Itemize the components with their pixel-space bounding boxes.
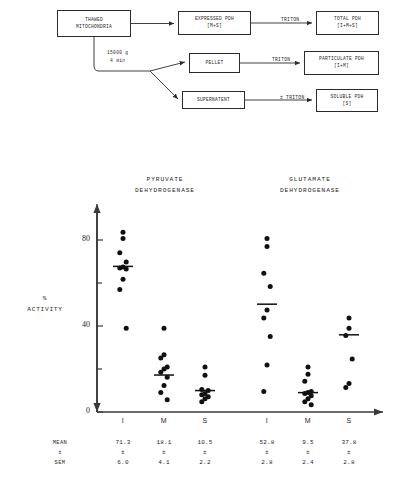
flow-box-line: SOLUBLE PDH: [330, 94, 363, 101]
flow-box-pellet: PELLET: [189, 53, 240, 73]
data-point: [162, 383, 167, 388]
data-point: [124, 259, 129, 264]
flow-box-line: [I+M]: [334, 63, 349, 70]
panel-title-pyruvate: PYRUVATE DEHYDROGENASE: [105, 174, 225, 197]
stats-row-label-mean: MEAN: [40, 440, 80, 446]
stats-sem-value: 2.4: [288, 459, 328, 466]
figure-page: THAWEDMITOCHONDRIAEXPRESSED PDH[M+S]TOTA…: [0, 0, 400, 477]
stats-plus-minus: ±: [103, 449, 143, 456]
summary-statistics-table: MEAN ± SEM 71.3±6.018.1±4.110.5±2.252.8±…: [0, 430, 400, 477]
data-point: [306, 365, 311, 370]
data-point: [162, 326, 167, 331]
data-point: [124, 267, 129, 272]
flow-box-line: PARTICULATE PDH: [319, 56, 364, 63]
x-label-pdh-m: M: [155, 417, 173, 424]
data-point: [302, 399, 307, 404]
flow-edge-label-triton-total: TRITON: [281, 17, 299, 22]
stats-plus-minus: ±: [144, 449, 184, 456]
data-point: [158, 390, 163, 395]
stats-plus-minus: ±: [329, 449, 369, 456]
x-label-pdh-s: S: [196, 417, 214, 424]
flow-box-line: TOTAL PDH: [334, 16, 361, 23]
data-point: [350, 356, 355, 361]
flow-box-line: EXPRESSED PDH: [195, 16, 234, 23]
data-point: [302, 379, 307, 384]
stats-row-label-pm: ±: [40, 450, 80, 456]
flow-box-line: MITOCHONDRIA: [76, 24, 112, 31]
flow-box-line: [I+M+S]: [337, 23, 358, 30]
stats-mean-value: 9.5: [288, 439, 328, 446]
data-point: [347, 326, 352, 331]
panel-title-line2: DEHYDROGENASE: [105, 185, 225, 196]
data-point: [165, 397, 170, 402]
data-point: [121, 277, 126, 282]
x-label-gdh-i: I: [258, 417, 276, 424]
flow-centrifugation-note: 15000 g4 min: [107, 49, 128, 65]
flow-box-line: THAWED: [85, 17, 103, 24]
flow-box-supernatent: SUPERNATENT: [182, 91, 245, 109]
data-point: [199, 392, 204, 397]
experimental-flow-diagram: THAWEDMITOCHONDRIAEXPRESSED PDH[M+S]TOTA…: [0, 0, 400, 125]
flow-box-line: [S]: [342, 101, 351, 108]
y-axis-title: % ACTIVITY: [14, 293, 76, 315]
data-point: [121, 230, 126, 235]
data-point: [117, 250, 122, 255]
stats-sem-value: 6.0: [103, 459, 143, 466]
stats-sem-value: 2.8: [329, 459, 369, 466]
stats-mean-value: 52.8: [247, 439, 287, 446]
data-point: [309, 402, 314, 407]
stats-mean-value: 71.3: [103, 439, 143, 446]
y-axis-title-line1: %: [14, 293, 76, 304]
data-point: [158, 370, 163, 375]
stats-row-label-sem: SEM: [40, 460, 80, 466]
stats-sem-value: 2.8: [247, 459, 287, 466]
flow-edge-label-triton-particulate: TRITON: [272, 57, 290, 62]
flow-box-line: PELLET: [205, 60, 223, 67]
stats-plus-minus: ±: [185, 449, 225, 456]
data-point: [343, 385, 348, 390]
data-point: [261, 316, 266, 321]
data-point: [268, 334, 273, 339]
panel-title-line2: DEHYDROGENASE: [250, 185, 370, 196]
y-axis-title-line2: ACTIVITY: [14, 304, 76, 315]
stats-sem-value: 2.2: [185, 459, 225, 466]
stats-plus-minus: ±: [288, 449, 328, 456]
flow-box-soluble-pdh: SOLUBLE PDH[S]: [316, 89, 378, 112]
y-tick-80: 80: [62, 234, 90, 243]
stats-mean-value: 18.1: [144, 439, 184, 446]
flow-edge-label-triton-soluble: ± TRITON: [280, 95, 304, 100]
data-point: [265, 236, 270, 241]
flow-box-thawed-mitochondria: THAWEDMITOCHONDRIA: [57, 10, 131, 37]
data-point: [124, 326, 129, 331]
data-point: [203, 365, 208, 370]
flow-box-total-pdh: TOTAL PDH[I+M+S]: [316, 11, 379, 35]
data-point: [306, 372, 311, 377]
data-point: [347, 381, 352, 386]
data-point: [265, 363, 270, 368]
data-point: [347, 316, 352, 321]
x-label-gdh-s: S: [340, 417, 358, 424]
data-point: [261, 389, 266, 394]
data-point: [199, 399, 204, 404]
y-tick-0: 0: [62, 406, 90, 415]
stats-plus-minus: ±: [247, 449, 287, 456]
x-label-pdh-i: I: [114, 417, 132, 424]
stats-sem-value: 4.1: [144, 459, 184, 466]
data-point: [121, 236, 126, 241]
stats-mean-value: 37.8: [329, 439, 369, 446]
stats-mean-value: 10.5: [185, 439, 225, 446]
centrifuge-duration: 4 min: [107, 57, 128, 65]
panel-title-glutamate: GLUTAMATE DEHYDROGENASE: [250, 174, 370, 197]
flow-box-line: [M+S]: [207, 23, 222, 30]
centrifuge-speed: 15000 g: [107, 49, 128, 57]
flow-box-particulate-pdh: PARTICULATE PDH[I+M]: [304, 51, 379, 75]
flow-box-line: SUPERNATENT: [197, 97, 230, 104]
x-label-gdh-m: M: [299, 417, 317, 424]
panel-title-line1: GLUTAMATE: [250, 174, 370, 185]
data-point: [265, 244, 270, 249]
data-point: [268, 284, 273, 289]
data-point: [203, 373, 208, 378]
data-point: [117, 287, 122, 292]
data-point: [158, 355, 163, 360]
y-tick-40: 40: [62, 320, 90, 329]
